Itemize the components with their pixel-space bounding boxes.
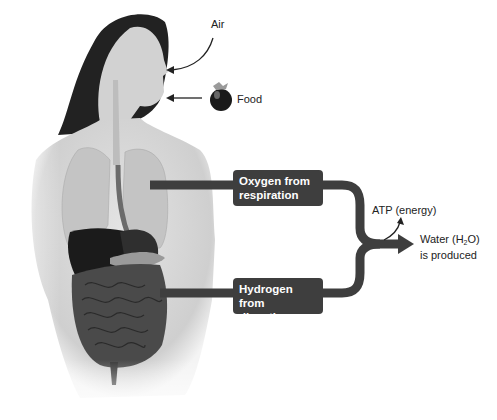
hydrogen-box-line1: Hydrogen from	[239, 282, 317, 310]
air-arrow	[172, 38, 213, 70]
atp-label: ATP (energy)	[372, 204, 436, 217]
water-prefix: Water (H	[420, 233, 464, 245]
hydrogen-box-line2: digestion	[239, 310, 317, 324]
oxygen-box: Oxygen from respiration	[233, 170, 323, 206]
oxygen-box-line1: Oxygen from	[239, 174, 317, 188]
water-line2: is produced	[420, 249, 480, 262]
hydrogen-box: Hydrogen from digestion	[233, 278, 323, 314]
atp-arrow	[384, 222, 400, 240]
water-suffix: O)	[468, 233, 480, 245]
apple-icon	[210, 82, 232, 111]
water-label: Water (H2O) is produced	[420, 233, 480, 262]
water-arrowhead	[398, 234, 414, 254]
respiration-digestion-diagram: Air Food Oxygen from respiration Hydroge…	[0, 0, 497, 420]
food-label: Food	[237, 93, 262, 106]
air-label: Air	[211, 18, 224, 31]
oxygen-box-line2: respiration	[239, 188, 317, 202]
